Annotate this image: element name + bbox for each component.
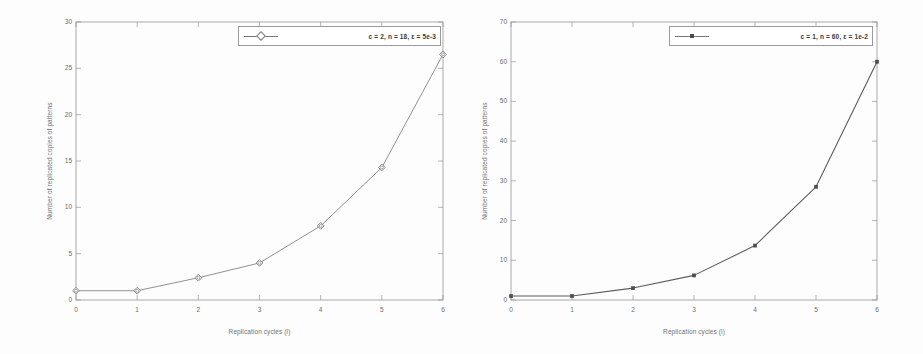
y-tick-label: 25 [65,64,72,71]
x-tick-label: 3 [684,306,704,313]
legend-label-left: c = 2, n = 18, ε = 5e-3 [278,33,436,40]
y-tick-label: 10 [500,256,507,263]
y-tick-label: 30 [65,18,72,25]
y-tick-label: 50 [500,97,507,104]
x-tick-label: 1 [127,306,147,313]
chart-panel-right: Number of replicated copies of patterns … [461,0,923,354]
y-tick-label: 40 [500,137,507,144]
y-tick-label: 0 [68,296,72,303]
y-tick-label: 10 [65,203,72,210]
y-axis-label-left: Number of replicated copies of patterns [46,102,53,219]
legend-sample-left [244,31,278,41]
chart-panel-left: Number of replicated copies of patterns … [0,0,461,354]
x-tick-label: 2 [188,306,208,313]
line-chart-right [461,0,923,354]
y-tick-label: 70 [500,18,507,25]
y-axis-label-right: Number of replicated copies of patterns [481,102,488,219]
x-tick-label: 0 [66,306,86,313]
x-tick-label: 4 [745,306,765,313]
y-tick-label: 20 [500,217,507,224]
y-tick-label: 0 [503,296,507,303]
x-tick-label: 0 [501,306,521,313]
x-tick-label: 3 [250,306,270,313]
y-tick-label: 5 [68,250,72,257]
legend-label-right: c = 1, n = 60, ε = 1e-2 [709,33,868,40]
x-tick-label: 6 [867,306,887,313]
legend-sample-right [675,31,709,41]
open-diamond-marker-icon [256,31,266,41]
x-axis-label-right: Replication cycles (l) [511,328,877,335]
x-tick-label: 1 [562,306,582,313]
y-tick-label: 15 [65,157,72,164]
x-tick-label: 2 [623,306,643,313]
legend-right: c = 1, n = 60, ε = 1e-2 [669,26,873,46]
plot-area-right [461,0,923,354]
x-tick-label: 6 [433,306,453,313]
x-tick-label: 5 [372,306,392,313]
filled-square-marker-icon [690,34,694,38]
y-tick-label: 30 [500,177,507,184]
legend-left: c = 2, n = 18, ε = 5e-3 [238,26,441,46]
y-tick-label: 20 [65,111,72,118]
figure-row: Number of replicated copies of patterns … [0,0,923,354]
x-axis-label-left: Replication cycles (l) [76,328,443,335]
y-tick-label: 60 [500,58,507,65]
x-tick-label: 5 [806,306,826,313]
x-tick-label: 4 [311,306,331,313]
